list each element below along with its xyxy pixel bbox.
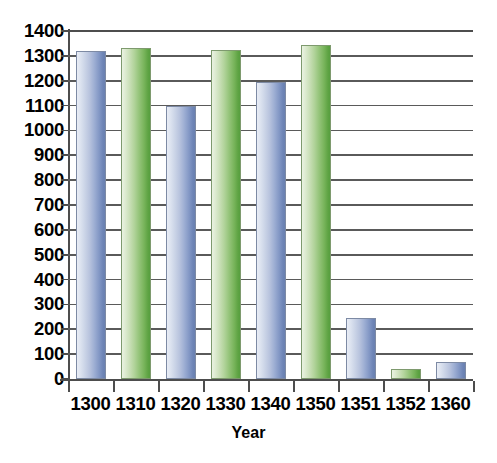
bar: [256, 82, 286, 379]
y-axis-tick-label: 1300: [6, 47, 64, 66]
bars-group: [68, 31, 473, 379]
x-axis-tick: [113, 381, 115, 392]
x-axis-title: Year: [0, 424, 497, 442]
y-axis-tick-label: 700: [6, 196, 64, 215]
x-axis-tick-label: 1350: [296, 394, 336, 414]
x-axis-tick: [473, 381, 475, 392]
bar: [76, 51, 106, 379]
y-axis-tick-label: 0: [6, 370, 64, 389]
x-axis-tick: [383, 381, 385, 392]
x-axis-tick-label: 1352: [386, 394, 426, 414]
bar: [166, 106, 196, 379]
x-axis-tick-label: 1351: [341, 394, 381, 414]
x-axis-tick: [428, 381, 430, 392]
y-axis-tick-label: 300: [6, 295, 64, 314]
x-axis-tick: [293, 381, 295, 392]
y-axis-tick-label: 1100: [6, 96, 64, 115]
x-axis-tick: [248, 381, 250, 392]
y-axis-tick-label: 1200: [6, 71, 64, 90]
bar: [211, 50, 241, 379]
y-axis-tick-label: 900: [6, 146, 64, 165]
y-axis-tick-label: 600: [6, 221, 64, 240]
plot-area: [68, 31, 473, 379]
bar-chart: 0100200300400500600700800900100011001200…: [0, 0, 497, 463]
bar: [391, 369, 421, 379]
x-axis-tick-label: 1310: [116, 394, 156, 414]
x-axis-tick: [158, 381, 160, 392]
x-axis-tick-label: 1360: [431, 394, 471, 414]
y-axis-tick-label: 200: [6, 320, 64, 339]
x-axis-ticks: [68, 381, 473, 393]
x-axis-tick: [338, 381, 340, 392]
x-axis-tick-label: 1340: [251, 394, 291, 414]
bar: [436, 362, 466, 379]
y-axis-tick-label: 800: [6, 171, 64, 190]
y-axis-tick-label: 100: [6, 345, 64, 364]
bar: [121, 48, 151, 379]
bar: [301, 45, 331, 379]
x-axis-tick: [203, 381, 205, 392]
bar: [346, 318, 376, 379]
y-axis-tick-label: 400: [6, 270, 64, 289]
y-axis-tick-label: 500: [6, 245, 64, 264]
x-axis-tick-label: 1320: [161, 394, 201, 414]
x-axis-tick-label: 1330: [206, 394, 246, 414]
y-axis-tick-labels: 0100200300400500600700800900100011001200…: [6, 0, 64, 463]
x-axis-tick-label: 1300: [71, 394, 111, 414]
y-axis-tick-label: 1400: [6, 22, 64, 41]
y-axis-tick-label: 1000: [6, 121, 64, 140]
x-axis-tick-labels: 130013101320133013401350135113521360: [68, 394, 479, 422]
x-axis-tick: [68, 381, 70, 392]
